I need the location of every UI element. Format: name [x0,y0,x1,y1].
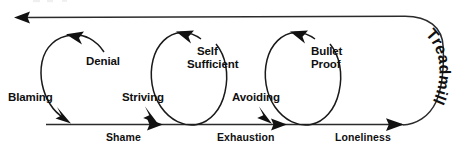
loop-2-entry-label: Striving [122,91,164,103]
baseline-flow-group [46,118,404,131]
loop-3-bottom-arrowhead [257,107,272,124]
baseline-label-exhaustion: Exhaustion [217,131,275,143]
loop-1-group [41,32,104,124]
loop-2-top-label-line-2: Sufficient [187,58,239,70]
loop-1-arc [41,35,104,118]
baseline-label-shame: Shame [106,131,141,143]
loop-3-entry-label: Avoiding [232,91,280,103]
loop-3-top-arrowhead [290,31,308,44]
return-path-line [24,16,443,125]
return-path-curved-label-text: Treadmill [423,25,454,107]
loop-2-top-arrowhead [176,31,194,44]
loop-1-top-label: Denial [86,55,120,67]
diagram-canvas: Blaming Striving Avoiding Denial Self Su… [0,0,454,148]
loop-1-entry-label: Blaming [8,91,53,103]
loop-1-top-arrowhead [66,32,84,45]
loop-1-bottom-arrowhead [56,107,72,124]
loop-3-top-label-line-1: Bullet [311,45,343,57]
loop-2-top-label-line-1: Self [197,45,218,57]
clipped-top-artifact [33,0,67,2]
return-path-curved-label: Treadmill [423,25,454,107]
treadmill-cycle-diagram: Blaming Striving Avoiding Denial Self Su… [0,0,454,148]
baseline-label-loneliness: Loneliness [335,131,391,143]
loop-3-top-label-line-2: Proof [311,58,341,70]
